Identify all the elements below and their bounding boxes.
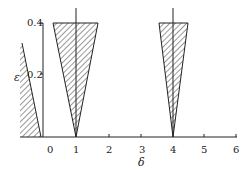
left-hatched-region (20, 43, 41, 137)
x-axis (20, 134, 237, 137)
y-axis (39, 23, 43, 137)
x-tick-1: 1 (73, 144, 79, 155)
y-axis-title: ε (14, 71, 20, 84)
y-tick-0.4: 0.4 (27, 17, 43, 28)
x-tick-6: 6 (233, 144, 239, 155)
tongue-delta-4 (159, 8, 188, 137)
chart: 0.4 0.2 0 1 2 3 4 5 6 δ ε (0, 0, 250, 171)
tongue-delta-1 (53, 8, 98, 137)
y-tick-0.2: 0.2 (27, 69, 43, 80)
x-tick-3: 3 (139, 144, 145, 155)
x-tick-5: 5 (201, 144, 207, 155)
x-tick-4: 4 (170, 144, 176, 155)
x-tick-2: 2 (106, 144, 112, 155)
x-axis-title: δ (138, 156, 145, 169)
x-tick-0: 0 (47, 144, 53, 155)
